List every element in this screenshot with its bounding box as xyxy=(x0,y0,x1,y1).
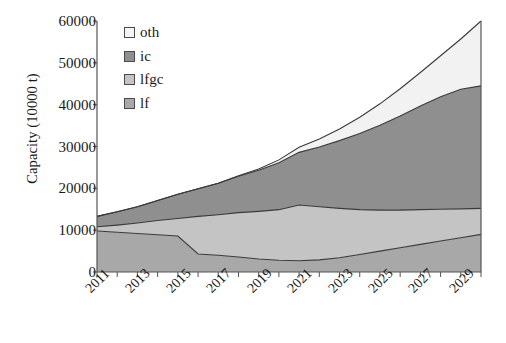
x-tick-label: 2017 xyxy=(204,266,234,296)
x-tick-label: 2029 xyxy=(447,266,477,296)
legend-item-label: oth xyxy=(140,25,159,40)
x-tick-label: 2011 xyxy=(83,267,112,296)
x-tick-label: 2013 xyxy=(123,266,153,296)
x-tick-label: 2019 xyxy=(245,266,275,296)
legend-swatch-icon xyxy=(124,27,135,38)
chart-figure: Capacity (10000 t) 010000200003000040000… xyxy=(0,0,506,343)
legend-item-label: lf xyxy=(140,96,149,111)
x-tick-label: 2015 xyxy=(164,266,194,296)
legend-swatch-icon xyxy=(124,74,135,85)
legend-swatch-icon xyxy=(124,98,135,109)
x-axis-tick-labels: 2011201320152017201920212023202520272029 xyxy=(0,0,506,343)
x-tick-label: 2027 xyxy=(406,266,436,296)
legend-item-ic: ic xyxy=(124,49,163,64)
legend-item-lf: lf xyxy=(124,96,163,111)
legend-item-lfgc: lfgc xyxy=(124,72,163,87)
chart-legend: othiclfgclf xyxy=(124,25,163,111)
x-tick-label: 2025 xyxy=(366,266,396,296)
x-tick-label: 2023 xyxy=(326,266,356,296)
x-tick-label: 2021 xyxy=(285,266,315,296)
legend-item-oth: oth xyxy=(124,25,163,40)
legend-item-label: ic xyxy=(140,49,151,64)
legend-item-label: lfgc xyxy=(140,72,163,87)
legend-swatch-icon xyxy=(124,51,135,62)
